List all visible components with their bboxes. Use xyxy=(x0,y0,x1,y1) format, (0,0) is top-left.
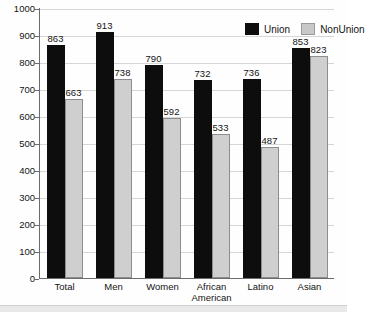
bar-nonunion[interactable] xyxy=(163,118,181,278)
bar-union[interactable] xyxy=(292,48,310,278)
bar-group: 853823 xyxy=(292,8,328,278)
chart-legend: Union NonUnion xyxy=(245,22,365,36)
legend-label-nonunion: NonUnion xyxy=(320,24,364,35)
y-axis-tick-label: 600 xyxy=(1,112,35,122)
category-label-line: Asian xyxy=(285,281,334,292)
category-label-line: Total xyxy=(40,281,89,292)
bar-value-label: 913 xyxy=(91,21,119,31)
category-label-line: African xyxy=(187,281,236,292)
x-axis-category-label: Latino xyxy=(236,281,285,292)
y-axis-tick-label: 700 xyxy=(1,85,35,95)
x-axis-category-label: Women xyxy=(138,281,187,292)
bar-value-label: 663 xyxy=(60,88,88,98)
legend-item-union[interactable]: Union xyxy=(245,23,290,35)
plot-area: 01002003004005006007008009001000 8636639… xyxy=(39,8,334,279)
bars-layer: 863663913738790592732533736487853823 xyxy=(40,8,334,278)
y-axis-labels: 01002003004005006007008009001000 xyxy=(1,8,35,279)
bar-value-label: 533 xyxy=(207,123,235,133)
y-axis-tick-label: 200 xyxy=(1,220,35,230)
bar-group: 732533 xyxy=(194,8,230,278)
y-axis-tick-label: 100 xyxy=(1,247,35,257)
bar-group: 913738 xyxy=(96,8,132,278)
x-axis-category-label: Men xyxy=(89,281,138,292)
bar-nonunion[interactable] xyxy=(261,147,279,278)
y-axis-tick-label: 800 xyxy=(1,58,35,68)
bar-value-label: 863 xyxy=(42,34,70,44)
legend-swatch-union-icon xyxy=(245,23,259,35)
bar-group: 790592 xyxy=(145,8,181,278)
bar-value-label: 487 xyxy=(256,136,284,146)
bar-value-label: 823 xyxy=(305,45,333,55)
category-label-line: American xyxy=(187,292,236,303)
bar-union[interactable] xyxy=(194,80,212,278)
page-bottom-strip xyxy=(0,305,347,312)
bar-nonunion[interactable] xyxy=(310,56,328,278)
bar-value-label: 592 xyxy=(158,107,186,117)
y-axis-tick-label: 1000 xyxy=(1,4,35,14)
bar-value-label: 790 xyxy=(140,54,168,64)
bar-union[interactable] xyxy=(47,45,65,278)
bar-group: 736487 xyxy=(243,8,279,278)
y-axis-tick-label: 500 xyxy=(1,139,35,149)
category-label-line: Women xyxy=(138,281,187,292)
x-axis-category-label: Asian xyxy=(285,281,334,292)
legend-swatch-nonunion-icon xyxy=(301,23,315,35)
category-label-line: Men xyxy=(89,281,138,292)
x-axis-line xyxy=(39,278,334,279)
bar-value-label: 738 xyxy=(109,68,137,78)
legend-item-nonunion[interactable]: NonUnion xyxy=(301,23,364,35)
category-label-line: Latino xyxy=(236,281,285,292)
legend-label-union: Union xyxy=(264,24,290,35)
y-axis-tick-label: 300 xyxy=(1,193,35,203)
bar-nonunion[interactable] xyxy=(65,99,83,278)
x-axis-category-label: AfricanAmerican xyxy=(187,281,236,303)
bar-value-label: 736 xyxy=(238,68,266,78)
x-axis-category-label: Total xyxy=(40,281,89,292)
bar-group: 863663 xyxy=(47,8,83,278)
y-axis-tick-label: 900 xyxy=(1,31,35,41)
bar-nonunion[interactable] xyxy=(114,79,132,278)
y-axis-tick-label: 400 xyxy=(1,166,35,176)
y-axis-tick-label: 0 xyxy=(1,274,35,284)
bar-union[interactable] xyxy=(145,65,163,278)
bar-union[interactable] xyxy=(243,79,261,278)
bar-nonunion[interactable] xyxy=(212,134,230,278)
y-axis-tick xyxy=(35,279,39,280)
bar-value-label: 732 xyxy=(189,69,217,79)
